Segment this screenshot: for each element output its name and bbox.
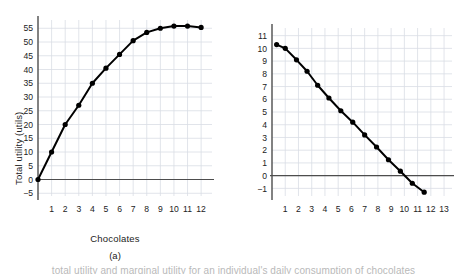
svg-text:5: 5	[262, 107, 267, 117]
svg-text:6: 6	[262, 94, 267, 104]
svg-text:8: 8	[262, 69, 267, 79]
svg-text:8: 8	[144, 204, 149, 214]
svg-text:40: 40	[23, 65, 33, 75]
chart-panel-total-utility: Total utility (utils) Chocolates (a) −50…	[0, 0, 232, 274]
svg-text:9: 9	[158, 204, 163, 214]
svg-text:11: 11	[413, 204, 422, 214]
svg-text:12: 12	[196, 204, 206, 214]
svg-text:2: 2	[262, 145, 267, 155]
svg-text:7: 7	[131, 204, 136, 214]
svg-text:7: 7	[262, 82, 267, 92]
svg-text:10: 10	[257, 44, 267, 54]
svg-text:55: 55	[23, 23, 33, 33]
figure-bottom-caption: total utility and marginal utility for a…	[0, 265, 467, 274]
svg-text:9: 9	[262, 56, 267, 66]
svg-text:1: 1	[49, 204, 54, 214]
svg-text:5: 5	[28, 161, 33, 171]
svg-text:25: 25	[23, 106, 33, 116]
svg-text:5: 5	[104, 204, 109, 214]
svg-text:3: 3	[309, 204, 314, 214]
svg-text:8: 8	[375, 204, 380, 214]
svg-text:10: 10	[169, 204, 179, 214]
svg-text:1: 1	[283, 204, 288, 214]
svg-text:10: 10	[23, 147, 33, 157]
svg-text:20: 20	[23, 120, 33, 130]
svg-text:−5: −5	[23, 188, 33, 198]
svg-text:10: 10	[400, 204, 410, 214]
svg-text:6: 6	[349, 204, 354, 214]
total-utility-plot: −50510152025303540455055123456789101112	[0, 0, 232, 240]
chart-panel-marginal-utility: Marginal utility (utils) Chocolates (b) …	[232, 0, 467, 274]
svg-text:11: 11	[183, 204, 192, 214]
svg-text:35: 35	[23, 78, 33, 88]
svg-text:0: 0	[262, 171, 267, 181]
svg-text:4: 4	[90, 204, 95, 214]
svg-text:12: 12	[426, 204, 436, 214]
svg-text:15: 15	[23, 133, 33, 143]
svg-text:3: 3	[262, 133, 267, 143]
svg-text:2: 2	[63, 204, 68, 214]
svg-text:5: 5	[336, 204, 341, 214]
svg-text:6: 6	[117, 204, 122, 214]
svg-text:3: 3	[76, 204, 81, 214]
svg-text:4: 4	[323, 204, 328, 214]
figure-container: Total utility (utils) Chocolates (a) −50…	[0, 0, 467, 274]
panel-tag-a: (a)	[75, 250, 155, 261]
svg-text:13: 13	[439, 204, 449, 214]
svg-text:0: 0	[28, 175, 33, 185]
svg-text:1: 1	[262, 158, 267, 168]
svg-text:11: 11	[258, 31, 267, 41]
svg-text:50: 50	[23, 37, 33, 47]
svg-text:4: 4	[262, 120, 267, 130]
svg-text:2: 2	[296, 204, 301, 214]
svg-text:9: 9	[389, 204, 394, 214]
marginal-utility-plot: −10123456789101112345678910111213	[232, 0, 467, 240]
svg-text:−1: −1	[257, 184, 267, 194]
svg-text:30: 30	[23, 92, 33, 102]
svg-text:45: 45	[23, 51, 33, 61]
svg-text:7: 7	[362, 204, 367, 214]
